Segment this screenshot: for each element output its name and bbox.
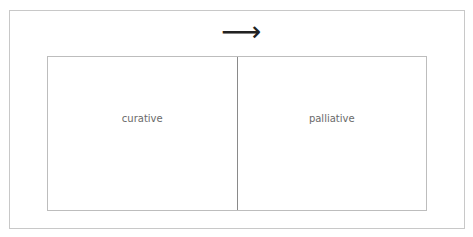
comparison-box: curative palliative xyxy=(47,56,427,211)
arrow-right-icon: ⟶ xyxy=(221,17,257,47)
label-palliative: palliative xyxy=(238,113,427,124)
label-curative: curative xyxy=(48,113,237,124)
cell-palliative: palliative xyxy=(237,57,427,210)
cell-curative: curative xyxy=(48,57,237,210)
